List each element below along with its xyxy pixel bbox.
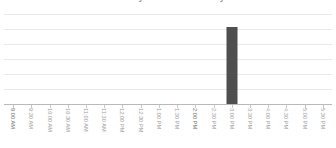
bar-slot[interactable]: [77, 14, 95, 104]
x-axis-label: 5:00 PM: [302, 108, 308, 129]
bar-slot[interactable]: [241, 14, 259, 104]
x-axis-label: 2:00 PM: [192, 108, 198, 129]
x-axis-label-slot[interactable]: 10:30 AM: [59, 108, 77, 148]
bar-slot[interactable]: [204, 14, 222, 104]
x-axis-label: 9:00 AM: [10, 108, 16, 129]
x-axis-label-slot[interactable]: 1:00 PM: [150, 108, 168, 148]
x-axis-label: 12:30 PM: [138, 108, 144, 132]
x-axis-label: 5:30 PM: [320, 108, 326, 129]
bar-slot[interactable]: [168, 14, 186, 104]
bars-layer: [4, 14, 332, 104]
x-axis-label: 3:30 PM: [247, 108, 253, 129]
x-axis-label: 11:30 AM: [101, 108, 107, 132]
x-axis-label: 2:30 PM: [211, 108, 217, 129]
x-axis-label-slot[interactable]: 12:00 PM: [113, 108, 131, 148]
bar-slot[interactable]: [4, 14, 22, 104]
x-axis-label-slot[interactable]: 3:30 PM: [241, 108, 259, 148]
chart-title: Activity Volume — Today: [0, 0, 336, 3]
x-axis-label: 1:30 PM: [174, 108, 180, 129]
x-axis-label: 10:00 AM: [47, 108, 53, 132]
x-axis-label-slot[interactable]: 9:00 AM: [4, 108, 22, 148]
bar-slot[interactable]: [314, 14, 332, 104]
bar-slot[interactable]: [59, 14, 77, 104]
bar-chart-widget: Activity Volume — Today 9:00 AM9:30 AM10…: [0, 0, 336, 148]
x-axis-label-slot[interactable]: 3:00 PM: [223, 108, 241, 148]
x-axis-label-slot[interactable]: 11:30 AM: [95, 108, 113, 148]
x-axis-label: 4:00 PM: [265, 108, 271, 129]
bar-slot[interactable]: [113, 14, 131, 104]
bar-slot[interactable]: [223, 14, 241, 104]
x-axis-label-slot[interactable]: 2:00 PM: [186, 108, 204, 148]
x-axis-label-slot[interactable]: 4:00 PM: [259, 108, 277, 148]
bar-slot[interactable]: [95, 14, 113, 104]
bar-slot[interactable]: [22, 14, 40, 104]
x-axis-label-slot[interactable]: 4:30 PM: [277, 108, 295, 148]
x-axis-label: 10:30 AM: [65, 108, 71, 132]
x-axis-label-slot[interactable]: 1:30 PM: [168, 108, 186, 148]
bar-slot[interactable]: [40, 14, 58, 104]
x-axis-label-slot[interactable]: 9:30 AM: [22, 108, 40, 148]
bar-slot[interactable]: [150, 14, 168, 104]
x-axis-label: 3:00 PM: [229, 108, 235, 129]
bar-slot[interactable]: [259, 14, 277, 104]
x-axis-label-slot[interactable]: 12:30 PM: [132, 108, 150, 148]
x-axis-label: 1:00 PM: [156, 108, 162, 129]
bar-slot[interactable]: [132, 14, 150, 104]
x-axis-label-slot[interactable]: 2:30 PM: [204, 108, 222, 148]
x-axis-label: 4:30 PM: [283, 108, 289, 129]
bar-slot[interactable]: [186, 14, 204, 104]
x-axis-label-slot[interactable]: 5:30 PM: [314, 108, 332, 148]
x-axis-label: 9:30 AM: [28, 108, 34, 129]
x-axis-label: 12:00 PM: [119, 108, 125, 132]
bar-slot[interactable]: [296, 14, 314, 104]
x-axis-label-slot[interactable]: 5:00 PM: [296, 108, 314, 148]
bar[interactable]: [226, 27, 237, 104]
x-axis-label: 11:00 AM: [83, 108, 89, 132]
bar-slot[interactable]: [277, 14, 295, 104]
x-axis-label-slot[interactable]: 10:00 AM: [40, 108, 58, 148]
x-axis-label-slot[interactable]: 11:00 AM: [77, 108, 95, 148]
x-axis-labels: 9:00 AM9:30 AM10:00 AM10:30 AM11:00 AM11…: [4, 108, 332, 148]
